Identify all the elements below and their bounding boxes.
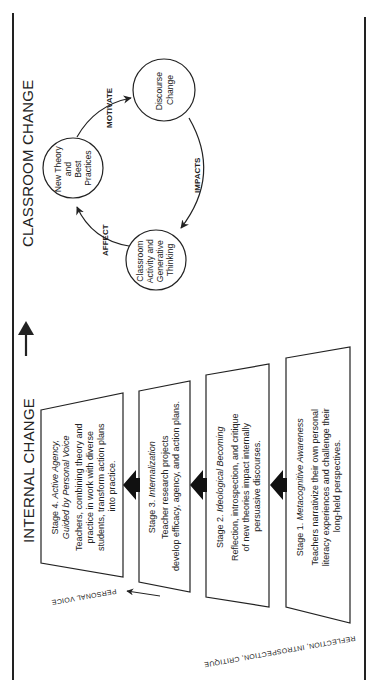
progress-arrow-2-to-3-icon	[190, 470, 207, 500]
node-classroom-activity: Classroom Activity and Generative Thinki…	[126, 230, 186, 290]
stage-2-box: Stage 2. Ideological Becoming Reflection…	[206, 364, 269, 607]
node-new-theory: New Theory and Best Practices	[43, 138, 103, 198]
classroom-change-heading: CLASSROOM CHANGE	[19, 80, 36, 247]
edge-motivate-label: MOTIVATE	[105, 87, 114, 128]
svg-text:Stage 2. Ideological Becoming: Stage 2. Ideological Becoming Reflection…	[215, 411, 262, 561]
node-discourse-change: Discourse Change	[133, 59, 195, 121]
internal-change-section: INTERNAL CHANGE Stage 4. Active Agency, …	[20, 347, 356, 669]
up-arrow-icon	[18, 321, 34, 356]
progress-arrow-1-to-2-icon	[270, 470, 287, 500]
side-arrow	[127, 591, 160, 596]
side-label-reflection: REFLECTION, INTROSPECTION, CRITIQUE	[203, 634, 356, 669]
side-label-personal-voice: PERSONAL VOICE	[51, 588, 117, 606]
internal-change-heading: INTERNAL CHANGE	[20, 398, 37, 543]
svg-text:Stage 1. Metacognitive Awarene: Stage 1. Metacognitive Awareness Teacher…	[295, 406, 342, 567]
edge-motivate-arrow	[77, 98, 131, 137]
stage-3-box: Stage 3. Internalization Teacher researc…	[139, 381, 190, 592]
progress-arrow-3-to-4-icon	[123, 470, 140, 500]
stage-1-box: Stage 1. Metacognitive Awareness Teacher…	[286, 347, 350, 623]
classroom-change-section: CLASSROOM CHANGE New Theory and Best Pra…	[19, 59, 204, 290]
edge-affect-label: AFFECT	[101, 224, 110, 256]
stages-of-change-diagram: CLASSROOM CHANGE New Theory and Best Pra…	[0, 0, 371, 680]
svg-text:Stage 4. Active Agency,: Stage 4. Active Agency, Guided by Person…	[50, 421, 117, 551]
svg-text:Classroom Activity and: Classroom Activity and Generative Thinki…	[135, 237, 175, 283]
stage-4-box: Stage 4. Active Agency, Guided by Person…	[41, 393, 123, 577]
svg-text:Stage 3. Internalization: Stage 3. Internalization Teacher researc…	[147, 401, 181, 571]
edge-impacts-label: IMPACTS	[193, 157, 202, 193]
svg-text:Discourse Change: Discourse Change	[154, 70, 175, 111]
svg-text:New Theory and: New Theory and Best Practices	[53, 144, 93, 193]
